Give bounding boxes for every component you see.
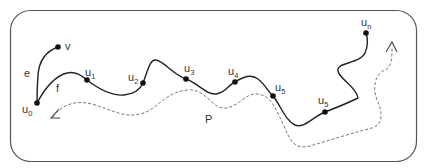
label-path-P: P — [205, 113, 212, 125]
label-u2: u2 — [128, 71, 138, 86]
edge-e — [37, 47, 58, 103]
node-v — [55, 44, 61, 50]
arrowhead-start-icon — [51, 109, 60, 118]
diagram-canvas: v u0 u1 u2 u3 u4 u5 u5 un e f P — [0, 0, 427, 168]
label-edge-e: e — [24, 67, 30, 79]
node-u3 — [183, 76, 189, 82]
node-u5a — [270, 93, 276, 99]
node-u1 — [84, 77, 90, 83]
label-u5a: u5 — [275, 81, 285, 96]
label-u3: u3 — [184, 62, 194, 77]
label-v: v — [65, 40, 71, 52]
arrowhead-end-icon — [386, 42, 397, 52]
label-un: un — [361, 16, 371, 31]
label-u0: u0 — [22, 103, 32, 118]
dashed-path-P — [53, 46, 392, 147]
node-u0 — [34, 100, 40, 106]
frame-border — [11, 11, 417, 162]
node-u2 — [140, 80, 146, 86]
path-diagram: v u0 u1 u2 u3 u4 u5 u5 un e f P — [0, 0, 427, 168]
label-u5b: u5 — [318, 94, 328, 109]
label-edge-f: f — [56, 82, 60, 94]
node-un — [363, 30, 369, 36]
node-u5b — [322, 109, 328, 115]
node-u4 — [232, 79, 238, 85]
label-u4: u4 — [228, 65, 238, 80]
